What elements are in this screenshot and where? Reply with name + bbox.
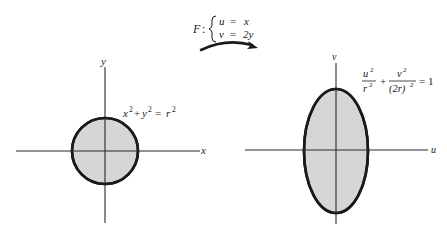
svg-text:2: 2 (148, 105, 152, 114)
x-axis-label: x (200, 144, 206, 156)
svg-text:v: v (397, 68, 402, 79)
svg-text:2: 2 (370, 66, 374, 74)
svg-text:x: x (122, 107, 128, 119)
svg-text:2y: 2y (243, 28, 254, 40)
svg-text:1: 1 (428, 75, 434, 87)
svg-text:r: r (166, 107, 171, 119)
svg-text:=: = (419, 75, 425, 87)
svg-text:(2r): (2r) (389, 83, 406, 95)
svg-text:x: x (243, 15, 249, 27)
right-panel-uv-plane: u v u 2 r 2 + v 2 (2r) 2 = 1 (245, 51, 436, 224)
svg-text:v: v (219, 28, 224, 40)
svg-text:u: u (363, 68, 368, 79)
svg-text:=: = (230, 28, 236, 40)
mapping-equation-1: u = x (219, 15, 249, 27)
u-axis-label: u (431, 144, 436, 155)
y-axis-label: y (100, 55, 106, 67)
circle-equation: x 2 + y 2 = r 2 (122, 105, 176, 119)
svg-text:+: + (134, 107, 140, 119)
mapping-equation-2: v = 2y (219, 28, 254, 40)
left-panel-xy-plane: x y x 2 + y 2 = r 2 (16, 55, 206, 223)
curved-arrow-icon (201, 42, 252, 50)
svg-text:r: r (363, 83, 368, 94)
svg-text:2: 2 (172, 105, 176, 114)
svg-text:+: + (380, 75, 386, 87)
svg-text:y: y (141, 107, 147, 119)
mapping-label: F : u = x v = 2y (192, 15, 254, 42)
svg-text:2: 2 (129, 105, 133, 114)
v-axis-label: v (332, 51, 337, 62)
mapping-colon: : (202, 22, 205, 36)
brace-icon (209, 16, 216, 42)
svg-text:u: u (219, 15, 225, 27)
transformation-diagram: F : u = x v = 2y x y x (0, 0, 447, 235)
mapping-name: F (192, 22, 201, 36)
svg-text:2: 2 (369, 81, 373, 89)
ellipse-equation: u 2 r 2 + v 2 (2r) 2 = 1 (362, 66, 434, 95)
svg-text:=: = (155, 107, 161, 119)
svg-text:2: 2 (403, 66, 407, 74)
svg-text:2: 2 (410, 81, 414, 89)
mapping-arrow (201, 41, 258, 50)
svg-text:=: = (230, 15, 236, 27)
